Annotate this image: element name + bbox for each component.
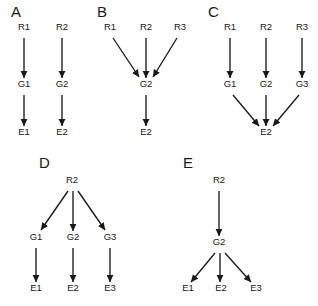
node-label: G1 bbox=[18, 78, 31, 89]
node-label: G3 bbox=[296, 78, 309, 89]
node-label: E1 bbox=[30, 282, 42, 293]
figure-canvas: AR1R2G1G2E1E2BR1R2R3G2E2CR1R2R3G1G2G3E2D… bbox=[0, 0, 318, 306]
node-label: R2 bbox=[260, 21, 272, 32]
edge-arrow bbox=[233, 95, 259, 126]
node-label: E1 bbox=[18, 126, 30, 137]
edge-arrow bbox=[41, 191, 68, 230]
node-label: G2 bbox=[213, 236, 226, 247]
node-label: G1 bbox=[224, 78, 237, 89]
panel-letter: E bbox=[183, 154, 193, 171]
node-label: E2 bbox=[67, 282, 79, 293]
panel-b: BR1R2R3G2E2 bbox=[97, 3, 186, 137]
edge-arrow bbox=[273, 95, 299, 126]
edge-arrow bbox=[153, 38, 177, 77]
panel-e: ER2G2E1E2E3 bbox=[182, 154, 262, 293]
panel-a: AR1R2G1G2E1E2 bbox=[11, 3, 68, 137]
node-label: R1 bbox=[18, 21, 30, 32]
node-label: E3 bbox=[250, 282, 262, 293]
node-label: E2 bbox=[215, 282, 227, 293]
panel-letter: A bbox=[11, 3, 21, 20]
edge-arrow bbox=[225, 253, 251, 282]
node-label: G2 bbox=[260, 78, 273, 89]
node-label: R2 bbox=[56, 21, 68, 32]
panel-c: CR1R2R3G1G2G3E2 bbox=[208, 3, 308, 137]
panel-d: DR2G1G2G3E1E2E3 bbox=[30, 154, 117, 293]
edge-arrow bbox=[113, 38, 139, 77]
node-label: R3 bbox=[296, 21, 308, 32]
node-label: G1 bbox=[30, 231, 43, 242]
panel-letter: B bbox=[97, 3, 107, 20]
node-label: E3 bbox=[104, 282, 116, 293]
node-label: G2 bbox=[56, 78, 69, 89]
node-label: G3 bbox=[104, 231, 117, 242]
node-label: R3 bbox=[174, 21, 186, 32]
node-label: R2 bbox=[140, 21, 152, 32]
network-topology-figure: AR1R2G1G2E1E2BR1R2R3G2E2CR1R2R3G1G2G3E2D… bbox=[0, 0, 318, 306]
node-label: R1 bbox=[224, 21, 236, 32]
node-label: E2 bbox=[140, 126, 152, 137]
node-label: G2 bbox=[67, 231, 80, 242]
panels-group: AR1R2G1G2E1E2BR1R2R3G2E2CR1R2R3G1G2G3E2D… bbox=[11, 3, 308, 293]
panel-letter: D bbox=[39, 154, 50, 171]
node-label: R2 bbox=[66, 174, 78, 185]
node-label: R2 bbox=[213, 174, 225, 185]
edge-arrow bbox=[191, 253, 215, 282]
node-label: E1 bbox=[182, 282, 194, 293]
node-label: E2 bbox=[56, 126, 68, 137]
edge-arrow bbox=[78, 191, 105, 230]
panel-letter: C bbox=[208, 3, 219, 20]
node-label: R1 bbox=[104, 21, 116, 32]
node-label: G2 bbox=[140, 78, 153, 89]
node-label: E2 bbox=[260, 126, 272, 137]
